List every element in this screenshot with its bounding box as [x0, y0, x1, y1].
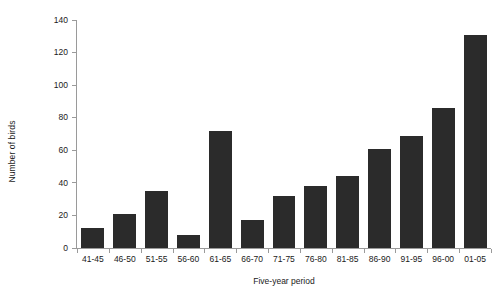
- x-axis-tick-label: 41-45: [77, 254, 109, 264]
- x-axis-tick-label: 96-00: [427, 254, 459, 264]
- bar: [241, 220, 264, 248]
- bar-group: [268, 20, 300, 248]
- bar: [304, 186, 327, 248]
- bar-group: [236, 20, 268, 248]
- x-axis-tick-mark: [332, 249, 333, 253]
- x-axis-tick-label: 71-75: [268, 254, 300, 264]
- bar: [209, 131, 232, 248]
- bar-group: [109, 20, 141, 248]
- bar-group: [395, 20, 427, 248]
- bar-group: [77, 20, 109, 248]
- x-axis-tick-mark: [77, 249, 78, 253]
- bar: [177, 235, 200, 248]
- x-axis-tick-mark: [459, 249, 460, 253]
- x-axis-tick-label: 56-60: [173, 254, 205, 264]
- x-axis-tick-label: 76-80: [300, 254, 332, 264]
- x-axis-tick-mark: [364, 249, 365, 253]
- bar: [464, 35, 487, 248]
- bar-group: [427, 20, 459, 248]
- x-axis-tick-mark: [236, 249, 237, 253]
- plot-area: [77, 20, 491, 248]
- x-axis-tick-mark: [204, 249, 205, 253]
- bar: [432, 108, 455, 248]
- x-axis-tick-label: 91-95: [395, 254, 427, 264]
- y-axis-tick-label: 20: [59, 211, 72, 220]
- bar: [113, 214, 136, 248]
- bar: [81, 228, 104, 248]
- x-axis-tick-label: 86-90: [364, 254, 396, 264]
- bar-group: [300, 20, 332, 248]
- x-axis-tick-label: 61-65: [204, 254, 236, 264]
- y-axis-tick-label: 80: [59, 113, 72, 122]
- bar-group: [364, 20, 396, 248]
- y-axis: 020406080100120140: [0, 0, 76, 303]
- bar-group: [332, 20, 364, 248]
- y-axis-tick-label: 40: [59, 179, 72, 188]
- y-axis-tick-label: 120: [54, 48, 72, 57]
- x-axis-tick-label: 46-50: [109, 254, 141, 264]
- bar: [145, 191, 168, 248]
- bar: [368, 149, 391, 248]
- bar: [273, 196, 296, 248]
- y-axis-tick-label: 140: [54, 16, 72, 25]
- bar-chart: Number of birds 020406080100120140 41-45…: [0, 0, 501, 303]
- x-axis-tick-mark: [268, 249, 269, 253]
- y-axis-tick-label: 0: [63, 244, 72, 253]
- x-axis-labels: 41-4546-5051-5556-6061-6566-7071-7576-80…: [77, 254, 491, 270]
- bar-group: [173, 20, 205, 248]
- x-axis-tick-mark: [141, 249, 142, 253]
- y-axis-tick-label: 100: [54, 81, 72, 90]
- bar-group: [204, 20, 236, 248]
- x-axis-tick-mark: [173, 249, 174, 253]
- bar: [400, 136, 423, 248]
- bar-group: [459, 20, 491, 248]
- x-axis-tick-mark: [300, 249, 301, 253]
- x-axis-tick-mark: [109, 249, 110, 253]
- x-axis-tick-label: 01-05: [459, 254, 491, 264]
- x-axis-tick-mark: [395, 249, 396, 253]
- x-axis-tick-label: 81-85: [332, 254, 364, 264]
- y-axis-tick-label: 60: [59, 146, 72, 155]
- x-axis-tick-mark: [491, 249, 492, 253]
- x-axis-title: Five-year period: [77, 276, 491, 286]
- x-axis-tick-label: 51-55: [141, 254, 173, 264]
- bar-group: [141, 20, 173, 248]
- x-axis-tick-label: 66-70: [236, 254, 268, 264]
- bar: [336, 176, 359, 248]
- x-axis-tick-mark: [427, 249, 428, 253]
